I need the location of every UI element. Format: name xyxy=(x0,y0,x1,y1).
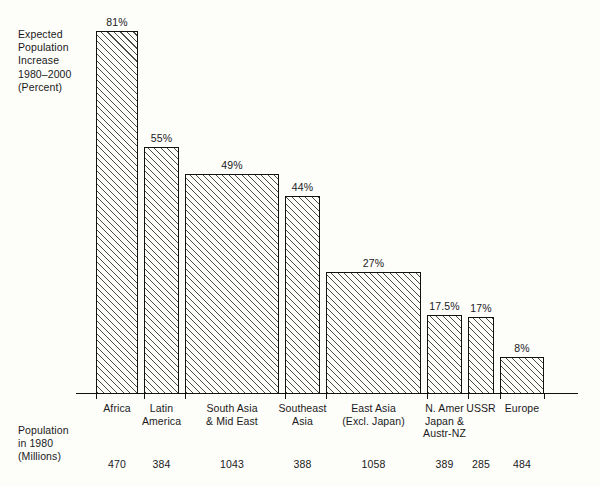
bar[interactable] xyxy=(285,196,320,394)
bar-value-label: 44% xyxy=(273,181,333,193)
bar[interactable] xyxy=(185,174,279,394)
bar[interactable] xyxy=(144,147,179,394)
bar-value-label: 17% xyxy=(451,302,511,314)
bar[interactable] xyxy=(500,357,544,394)
bar-value-label: 8% xyxy=(492,342,552,354)
bar[interactable] xyxy=(96,31,138,394)
bar-value-label: 27% xyxy=(344,257,404,269)
bar-value-label: 81% xyxy=(87,16,147,28)
bar-value-label: 55% xyxy=(132,132,192,144)
population-value: 484 xyxy=(492,458,552,470)
bar-value-label: 49% xyxy=(202,159,262,171)
x-axis-tick xyxy=(544,393,545,399)
population-value: 1043 xyxy=(202,458,262,470)
bar[interactable] xyxy=(427,315,462,394)
plot-area: 81%Africa47055%Latin America38449%South … xyxy=(0,0,600,486)
chart-canvas: Expected Population Increase 1980–2000 (… xyxy=(0,0,600,486)
population-value: 384 xyxy=(132,458,192,470)
bar[interactable] xyxy=(468,317,494,394)
category-label: Europe xyxy=(477,402,567,415)
population-value: 388 xyxy=(273,458,333,470)
population-value: 1058 xyxy=(344,458,404,470)
bar[interactable] xyxy=(326,272,421,394)
